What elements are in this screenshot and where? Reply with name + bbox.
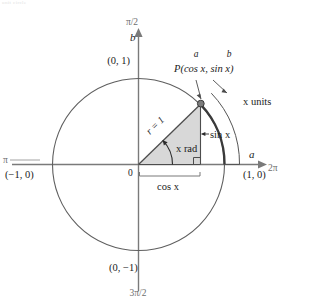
circle-point-left: (−1, 0) bbox=[5, 169, 34, 181]
cosine-brace bbox=[140, 172, 201, 176]
angle-marker-top: π/2 bbox=[126, 17, 138, 27]
angle-marker-bottom: 3π/2 bbox=[130, 288, 147, 298]
opposite-label: sin x bbox=[210, 129, 231, 140]
adjacent-label: cos x bbox=[157, 181, 180, 192]
vertical-axis-label: b bbox=[130, 31, 136, 43]
coordinate-marker-b: b bbox=[227, 49, 232, 59]
sine-label-pointer-arrowhead bbox=[201, 132, 206, 136]
vertical-axis-arrowhead bbox=[134, 28, 142, 37]
angle-label: x rad bbox=[176, 143, 198, 154]
horizontal-axis-label: a bbox=[249, 148, 255, 160]
point-p-marker bbox=[197, 100, 204, 107]
origin-label: 0 bbox=[128, 168, 133, 178]
angle-marker-right: 2π bbox=[268, 163, 278, 173]
circle-point-bottom: (0, −1) bbox=[109, 262, 138, 274]
leader-arrowhead-point-p bbox=[197, 94, 201, 99]
unit-circle-figure: b a 0 π/2 π 2π 3π/2 (0, 1) (−1, 0) (1, 0… bbox=[0, 0, 312, 307]
point-p-label: P(cos x, sin x) bbox=[173, 63, 234, 75]
coordinate-marker-a: a bbox=[194, 49, 199, 59]
figure-canvas: b a 0 π/2 π 2π 3π/2 (0, 1) (−1, 0) (1, 0… bbox=[0, 0, 312, 307]
angle-marker-left: π bbox=[3, 155, 8, 165]
circle-point-top: (0, 1) bbox=[107, 55, 130, 67]
circle-point-right: (1, 0) bbox=[243, 169, 266, 181]
horizontal-axis-arrowhead bbox=[258, 160, 267, 168]
arc-units-label: x units bbox=[243, 96, 271, 107]
hypotenuse-label: r = 1 bbox=[144, 114, 166, 136]
